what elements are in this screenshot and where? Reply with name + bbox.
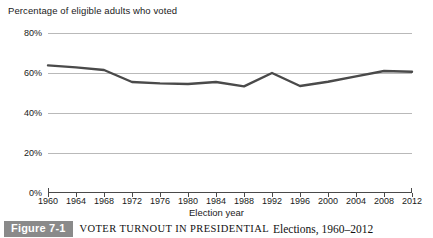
figure-container: Percentage of eligible adults who voted …	[0, 0, 433, 238]
x-tick-label-1984: 1984	[206, 196, 226, 206]
y-axis-tick-labels: 0% 20% 40% 60% 80%	[8, 33, 42, 193]
x-tick-label-2012: 2012	[402, 196, 422, 206]
x-tick-label-1980: 1980	[178, 196, 198, 206]
y-tick-label-20: 20%	[24, 148, 42, 158]
figure-caption: Figure 7-1 VOTER TURNOUT IN PRESIDENTIAL…	[0, 219, 433, 238]
x-tick-label-1968: 1968	[94, 196, 114, 206]
x-tick-label-1996: 1996	[290, 196, 310, 206]
x-axis-title: Election year	[0, 207, 433, 218]
y-tick-label-60: 60%	[24, 68, 42, 78]
x-tick-label-1960: 1960	[38, 196, 58, 206]
figure-number-badge: Figure 7-1	[4, 221, 73, 237]
caption-title-smallcaps: VOTER TURNOUT IN PRESIDENTIAL	[80, 223, 269, 234]
x-tick-label-2000: 2000	[318, 196, 338, 206]
caption-title-rest: Elections, 1960–2012	[273, 223, 373, 235]
x-tick-label-1964: 1964	[66, 196, 86, 206]
x-tick-label-2004: 2004	[346, 196, 366, 206]
x-tick-label-1972: 1972	[122, 196, 142, 206]
x-tick-label-1976: 1976	[150, 196, 170, 206]
y-tick-label-80: 80%	[24, 28, 42, 38]
turnout-line-series	[48, 33, 412, 193]
x-tick-label-1992: 1992	[262, 196, 282, 206]
x-tick-label-2008: 2008	[374, 196, 394, 206]
y-axis-title: Percentage of eligible adults who voted	[8, 5, 177, 16]
y-tick-label-40: 40%	[24, 108, 42, 118]
plot-area	[48, 33, 412, 193]
x-tick-label-1988: 1988	[234, 196, 254, 206]
